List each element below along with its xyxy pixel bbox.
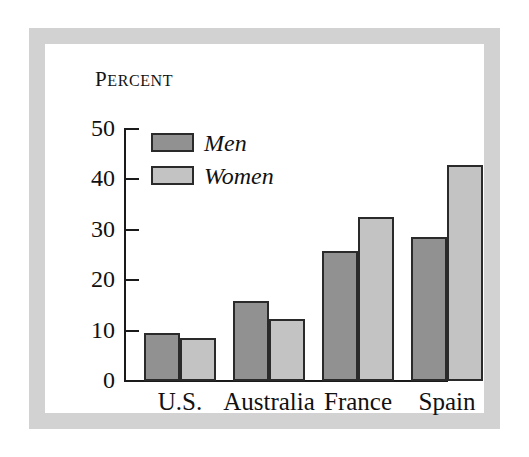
y-tick-label-40: 40: [63, 166, 115, 190]
bar-spain-women: [447, 165, 483, 381]
y-axis-title: PERCENT: [95, 67, 173, 92]
figure-canvas: PERCENT 01020304050 U.S.AustraliaFranceS…: [45, 44, 484, 413]
y-axis-title-smallcaps: ERCENT: [107, 72, 173, 89]
y-tick-50: [126, 128, 139, 130]
men-swatch-icon: [151, 133, 194, 152]
chart-legend: Men Women: [151, 128, 274, 194]
figure-frame: PERCENT 01020304050 U.S.AustraliaFranceS…: [29, 28, 500, 429]
bar-us-men: [144, 333, 180, 381]
y-tick-label-50: 50: [63, 116, 115, 140]
y-tick-0: [126, 380, 139, 382]
y-axis-title-initial: P: [95, 67, 107, 91]
bar-australia-women: [269, 319, 305, 381]
y-tick-label-0: 0: [63, 368, 115, 392]
legend-label-men: Men: [204, 131, 247, 155]
women-swatch-icon: [151, 166, 194, 185]
bar-spain-men: [411, 237, 447, 381]
y-tick-label-10: 10: [63, 318, 115, 342]
bar-chart-plot-area: PERCENT 01020304050 U.S.AustraliaFranceS…: [45, 44, 484, 413]
legend-item-men: Men: [151, 128, 274, 157]
legend-label-women: Women: [204, 164, 274, 188]
y-tick-label-30: 30: [63, 217, 115, 241]
x-label-spain: Spain: [389, 388, 505, 416]
y-tick-label-20: 20: [63, 267, 115, 291]
y-tick-20: [126, 279, 139, 281]
y-tick-40: [126, 178, 139, 180]
legend-item-women: Women: [151, 161, 274, 190]
bar-australia-men: [233, 301, 269, 381]
bar-france-women: [358, 217, 394, 381]
y-axis-line: [124, 128, 126, 382]
bar-us-women: [180, 338, 216, 381]
y-tick-30: [126, 229, 139, 231]
bar-france-men: [322, 251, 358, 381]
figure-root: PERCENT 01020304050 U.S.AustraliaFranceS…: [0, 0, 529, 457]
y-tick-10: [126, 330, 139, 332]
